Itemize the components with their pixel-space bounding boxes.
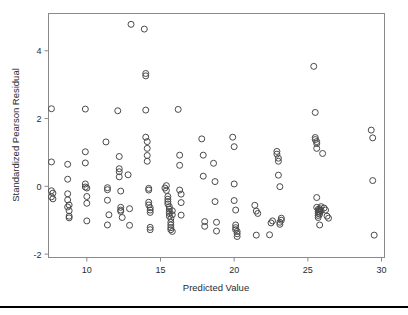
scatter-plot-figure: 1015202530 -2024 Predicted Value Standar… bbox=[0, 0, 408, 315]
x-axis-title: Predicted Value bbox=[183, 282, 249, 293]
y-axis-title: Standardized Pearson Residual bbox=[10, 68, 21, 202]
x-tick-label: 25 bbox=[303, 265, 313, 275]
x-tick-label: 30 bbox=[377, 265, 387, 275]
y-tick-label: 4 bbox=[36, 46, 41, 56]
x-tick-label: 20 bbox=[229, 265, 239, 275]
y-tick-label: 0 bbox=[36, 182, 41, 192]
y-tick-label: -2 bbox=[33, 250, 41, 260]
x-tick-label: 15 bbox=[155, 265, 165, 275]
y-tick-label: 2 bbox=[36, 114, 41, 124]
x-tick-label: 10 bbox=[82, 265, 92, 275]
figure-background bbox=[0, 0, 408, 315]
